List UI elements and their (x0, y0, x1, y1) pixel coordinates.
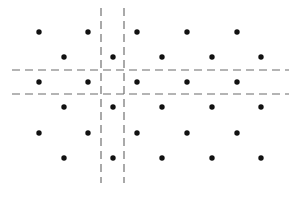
lattice-dot (110, 104, 115, 109)
lattice-dot (234, 130, 239, 135)
lattice-dot (184, 29, 189, 34)
lattice-dot (85, 29, 90, 34)
lattice-canvas (0, 0, 297, 199)
lattice-dot (61, 104, 66, 109)
lattice-dot (209, 104, 214, 109)
lattice-dot (258, 54, 263, 59)
lattice-dot (36, 29, 41, 34)
lattice-dot (258, 104, 263, 109)
lattice-dot (36, 79, 41, 84)
lattice-dot (61, 155, 66, 160)
lattice-dot (134, 130, 139, 135)
lattice-dot (134, 79, 139, 84)
lattice-dot (110, 54, 115, 59)
figure-background (0, 0, 297, 199)
lattice-dot (184, 79, 189, 84)
lattice-dot (184, 130, 189, 135)
lattice-dot (234, 29, 239, 34)
lattice-dot (61, 54, 66, 59)
lattice-dot (159, 104, 164, 109)
lattice-dot (159, 155, 164, 160)
lattice-dot (159, 54, 164, 59)
lattice-dot (85, 130, 90, 135)
lattice-dot (209, 155, 214, 160)
lattice-dot (85, 79, 90, 84)
lattice-figure (0, 0, 297, 199)
lattice-dot (209, 54, 214, 59)
lattice-dot (258, 155, 263, 160)
lattice-dot (134, 29, 139, 34)
lattice-dot (36, 130, 41, 135)
lattice-dot (110, 155, 115, 160)
lattice-dot (234, 79, 239, 84)
